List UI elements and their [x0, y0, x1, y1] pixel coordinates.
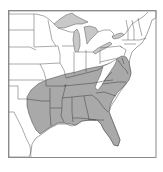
range-map: Range map of eastern United States: [0, 0, 163, 172]
map-canvas: [0, 0, 163, 172]
